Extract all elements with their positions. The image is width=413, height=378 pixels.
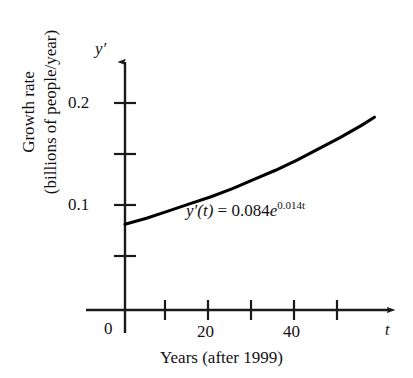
y-tick-label-0.1: 0.1 xyxy=(68,196,89,213)
x-tick-label-0: 0 xyxy=(104,320,113,337)
curve-equation-annotation: y′(t) = 0.084e0.014t xyxy=(186,200,305,219)
y-tick-label-0.2: 0.2 xyxy=(68,94,89,111)
y-axis-label-line1: Growth rate xyxy=(18,2,40,222)
y-axis-label: Growth rate (billions of people/year) xyxy=(18,2,78,222)
equation-equals: = xyxy=(213,201,231,220)
y-axis-label-line2: (billions of people/year) xyxy=(40,2,62,222)
x-tick-label-40: 40 xyxy=(283,322,300,342)
x-axis-symbol: t xyxy=(385,322,389,338)
equation-exponent: 0.014t xyxy=(277,199,305,211)
equation-function-name: y′ xyxy=(186,201,197,220)
equation-coefficient: 0.084 xyxy=(231,201,269,220)
y-axis-symbol: y′ xyxy=(95,40,106,57)
x-tick-label-20: 20 xyxy=(197,322,214,342)
equation-argument: (t) xyxy=(197,201,213,220)
x-axis-label: Years (after 1999) xyxy=(160,349,283,366)
figure-exponential-growth-rate: Growth rate (billions of people/year) 0.… xyxy=(0,0,413,378)
